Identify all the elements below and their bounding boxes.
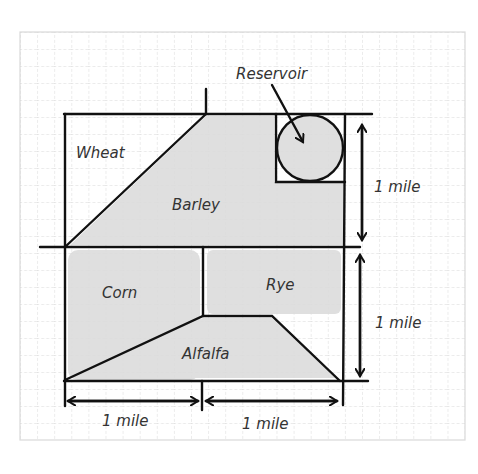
label-corn: Corn	[102, 284, 137, 302]
label-wheat: Wheat	[76, 144, 126, 162]
dimension-bottom-right: 1 mile	[242, 415, 289, 433]
reservoir-fill	[278, 116, 342, 180]
label-barley: Barley	[172, 196, 221, 214]
dimension-right-bottom: 1 mile	[375, 314, 422, 332]
label-rye: Rye	[266, 276, 295, 294]
dimension-bottom-left: 1 mile	[102, 412, 149, 430]
dimension-right-top: 1 mile	[374, 178, 421, 196]
farm-diagram: Wheat Barley Reservoir Corn Rye Alfalfa …	[0, 0, 478, 474]
label-alfalfa: Alfalfa	[181, 345, 230, 363]
label-reservoir: Reservoir	[236, 65, 308, 83]
